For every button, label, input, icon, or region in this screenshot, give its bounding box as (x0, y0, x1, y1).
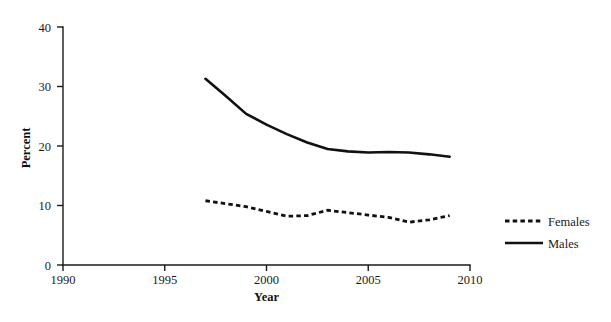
series-line-females (205, 201, 449, 222)
x-axis-title: Year (254, 290, 279, 304)
x-tick-label-2005: 2005 (356, 273, 381, 287)
x-tick-label-2010: 2010 (458, 273, 483, 287)
legend-label-females: Females (548, 215, 590, 229)
y-tick-label-30: 30 (39, 80, 52, 94)
y-tick-label-40: 40 (39, 21, 52, 35)
y-tick-label-0: 0 (45, 259, 51, 273)
y-axis-ticks (57, 27, 63, 265)
series-line-males (205, 79, 449, 157)
x-tick-label-2000: 2000 (254, 273, 279, 287)
y-tick-label-20: 20 (39, 140, 52, 154)
x-tick-label-1995: 1995 (152, 273, 177, 287)
y-tick-label-10: 10 (39, 199, 52, 213)
chart-legend: Females Males (505, 215, 590, 251)
chart-canvas: 0 10 20 30 40 1990 1995 2000 2005 2010 Y… (0, 0, 611, 322)
x-axis-ticks (63, 265, 470, 271)
line-chart: 0 10 20 30 40 1990 1995 2000 2005 2010 Y… (0, 0, 611, 322)
y-axis-title: Percent (19, 127, 33, 169)
x-tick-label-1990: 1990 (51, 273, 76, 287)
legend-label-males: Males (548, 237, 579, 251)
